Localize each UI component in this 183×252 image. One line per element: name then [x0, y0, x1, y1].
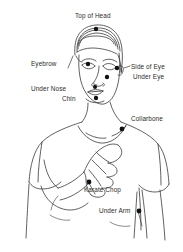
- shoulder-left: [29, 122, 82, 182]
- leader-side-of-eye: [124, 66, 130, 68]
- finger-2-middle: [107, 163, 117, 177]
- figure-line-drawing: [0, 0, 183, 252]
- label-under-arm: Under Arm: [99, 207, 130, 215]
- eft-tapping-points-diagram: Top of Head Eyebrow Side of Eye Under Ey…: [0, 0, 183, 252]
- brow-right: [103, 59, 117, 62]
- label-under-eye: Under Eye: [133, 73, 164, 81]
- neck-left: [82, 103, 88, 122]
- label-collarbone: Collarbone: [131, 115, 163, 123]
- shoulder-right: [121, 122, 169, 184]
- torso-left-edge: [26, 184, 29, 238]
- eye-right-lower: [103, 66, 116, 70]
- face-outline: [79, 53, 120, 104]
- finger-1-index: [108, 145, 122, 163]
- label-chin: Chin: [62, 95, 76, 103]
- leader-eyebrow: [68, 56, 73, 68]
- dot-under-nose[interactable]: [93, 85, 97, 89]
- label-karate-chop: Karate Chop: [84, 186, 121, 194]
- torso-right-edge-inner: [134, 192, 137, 238]
- knuckle-line-3: [89, 170, 101, 186]
- neck-right: [110, 102, 121, 122]
- dot-chin[interactable]: [94, 96, 98, 100]
- nose-bridge: [94, 66, 99, 85]
- collarbone-right-line: [112, 126, 126, 136]
- hairline: [77, 48, 117, 54]
- hand-back: [84, 144, 118, 172]
- dot-under-eye[interactable]: [105, 75, 109, 79]
- collarbone-left-line: [86, 133, 106, 138]
- label-eyebrow: Eyebrow: [31, 60, 57, 68]
- shirt-fold-right: [110, 222, 130, 226]
- dot-top-of-head[interactable]: [94, 27, 98, 31]
- lip-line: [88, 91, 103, 92]
- nostril-right: [103, 83, 105, 86]
- label-top-of-head: Top of Head: [75, 12, 111, 20]
- sleeve-right-hem: [139, 184, 169, 192]
- brow-left: [82, 59, 96, 61]
- knuckle-line-2: [92, 160, 106, 174]
- knuckle-line-1: [96, 152, 109, 162]
- arm-left-upper-outline: [44, 160, 58, 188]
- label-side-of-eye: Side of Eye: [131, 63, 165, 71]
- sleeve-left-seam: [38, 142, 42, 182]
- arm-right-outer: [160, 190, 165, 240]
- sleeve-right-seam: [158, 144, 161, 185]
- arm-left-lower-outline: [41, 186, 88, 210]
- dot-eyebrow[interactable]: [86, 62, 90, 66]
- shirt-fold-left: [50, 215, 70, 220]
- shirt-neckline: [78, 125, 126, 143]
- dot-side-of-eye[interactable]: [115, 66, 119, 70]
- hair-line-4: [80, 36, 114, 44]
- dot-under-arm[interactable]: [137, 209, 142, 214]
- label-under-nose: Under Nose: [31, 85, 66, 93]
- sleeve-left-hem: [29, 182, 61, 189]
- arm-right-inner: [142, 190, 147, 238]
- forearm-top: [58, 172, 84, 188]
- dot-karate-chop[interactable]: [87, 180, 92, 185]
- nostril-left: [92, 83, 94, 86]
- dot-collarbone[interactable]: [120, 127, 125, 132]
- eye-right-upper: [103, 63, 116, 67]
